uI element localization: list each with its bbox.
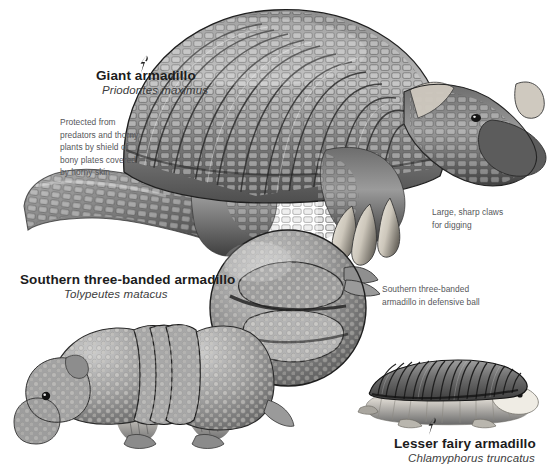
annotation-armor: Protected from predators and thorny plan… [60,116,138,179]
label-giant-armadillo: Giant armadillo Priodontes maximus [96,68,208,97]
label-lesser-fairy-armadillo: Lesser fairy armadillo Chlamyphorus trun… [394,436,536,465]
label-southern-three-banded-armadillo: Southern three-banded armadillo Tolypeut… [20,272,235,301]
fairy-carapace [369,360,527,401]
giant-armadillo-common-name: Giant armadillo [96,68,208,84]
illustration-plate: Giant armadillo Priodontes maximus Prote… [0,0,552,467]
fairy-armadillo-common-name: Lesser fairy armadillo [394,436,536,452]
annotation-claws: Large, sharp claws for digging [432,206,503,231]
three-banded-armadillo-figure [6,300,296,452]
bolt-pointer-icon [427,417,439,435]
fairy-armadillo-figure [356,348,542,430]
annotation-defensive-ball: Southern three-banded armadillo in defen… [382,283,480,308]
three-banded-scientific-name: Tolypeutes matacus [64,288,235,302]
fairy-armadillo-scientific-name: Chlamyphorus truncatus [408,452,536,466]
three-banded-common-name: Southern three-banded armadillo [20,272,235,288]
three-banded-head [14,355,90,444]
giant-armadillo-scientific-name: Priodontes maximus [102,84,208,98]
